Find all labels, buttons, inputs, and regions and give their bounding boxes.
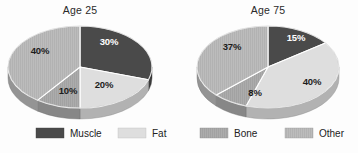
chart-title: Age 25 xyxy=(63,4,97,16)
charts-svg-canvas: 30%20%10%40%Age 2515%40%8%37%Age 75 Musc… xyxy=(0,0,358,153)
legend-item-fat[interactable]: Fat xyxy=(118,128,167,139)
pie-chart-age-25: 30%20%10%40%Age 25 xyxy=(8,4,152,119)
legend-label-other: Other xyxy=(319,128,345,139)
legend-swatch-fat xyxy=(118,128,146,138)
slice-label-other: 37% xyxy=(223,41,242,52)
slice-label-fat: 20% xyxy=(95,79,114,90)
legend-swatch-other xyxy=(285,128,313,138)
legend-swatch-bone xyxy=(200,128,228,138)
chart-title: Age 75 xyxy=(251,4,285,16)
slice-label-muscle: 30% xyxy=(100,36,119,47)
legend-swatch-muscle xyxy=(36,128,64,138)
slice-label-muscle: 15% xyxy=(287,32,306,43)
slice-label-bone: 10% xyxy=(59,85,78,96)
pie-slices xyxy=(197,26,339,108)
legend-item-bone[interactable]: Bone xyxy=(200,128,258,139)
slice-label-bone: 8% xyxy=(248,87,262,98)
pie-slices xyxy=(8,26,152,108)
pie-chart-figure: 30%20%10%40%Age 2515%40%8%37%Age 75 Musc… xyxy=(0,0,358,153)
pie-chart-age-75: 15%40%8%37%Age 75 xyxy=(197,4,339,119)
legend-item-other[interactable]: Other xyxy=(285,128,345,139)
slice-label-other: 40% xyxy=(31,45,50,56)
legend-label-muscle: Muscle xyxy=(70,128,102,139)
legend-label-bone: Bone xyxy=(234,128,258,139)
chart-legend: MuscleFatBoneOther xyxy=(36,128,345,139)
legend-label-fat: Fat xyxy=(152,128,167,139)
slice-label-fat: 40% xyxy=(303,76,322,87)
legend-item-muscle[interactable]: Muscle xyxy=(36,128,102,139)
pie-charts-layer: 30%20%10%40%Age 2515%40%8%37%Age 75 xyxy=(8,4,339,119)
